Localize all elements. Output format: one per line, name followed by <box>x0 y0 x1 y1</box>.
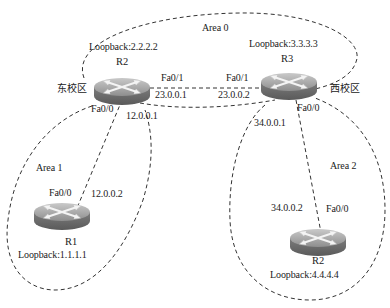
network-topology-diagram <box>0 0 390 308</box>
area1-boundary <box>7 106 151 290</box>
r1-fa00-label: Fa0/0 <box>49 188 71 198</box>
area2-label: Area 2 <box>330 161 356 171</box>
r3-name: R3 <box>281 54 293 65</box>
r1-loopback: Loopback:1.1.1.1 <box>18 250 87 260</box>
r2-fa01-label: Fa0/1 <box>161 73 183 83</box>
router-r1-icon <box>34 203 90 230</box>
r2-top-name: R2 <box>116 57 128 68</box>
r2-fa01-ip: 23.0.0.1 <box>155 90 187 100</box>
r3-fa00-label: Fa0/0 <box>297 103 319 113</box>
r3-loopback: Loopback:3.3.3.3 <box>249 39 318 49</box>
east-campus-label: 东校区 <box>57 84 87 94</box>
r3-fa00-ip: 34.0.0.1 <box>254 118 286 128</box>
r1-fa00-ip: 12.0.0.2 <box>91 189 123 199</box>
link-r3-r4 <box>296 100 322 238</box>
r4-fa00-ip: 34.0.0.2 <box>271 203 303 213</box>
area0-label: Area 0 <box>202 23 228 33</box>
r4-fa00-label: Fa0/0 <box>326 204 348 214</box>
area1-label: Area 1 <box>36 163 62 173</box>
router-r2-top-icon <box>94 78 150 105</box>
router-r3-icon <box>261 73 317 100</box>
r1-name: R1 <box>65 237 77 248</box>
r2-bottom-name: R2 <box>312 256 324 267</box>
r3-fa01-ip: 23.0.0.2 <box>218 90 250 100</box>
r2-bottom-loopback: Loopback:4.4.4.4 <box>270 270 339 280</box>
r3-fa01-label: Fa0/1 <box>226 73 248 83</box>
link-r2-r3-lower <box>140 100 275 107</box>
router-r2-bottom-icon <box>290 229 346 256</box>
r2-fa00-label: Fa0/0 <box>91 104 113 114</box>
r2-fa00-ip: 12.0.0.1 <box>126 111 158 121</box>
r2-top-loopback: Loopback:2.2.2.2 <box>89 42 158 52</box>
west-campus-label: 西校区 <box>330 84 360 94</box>
